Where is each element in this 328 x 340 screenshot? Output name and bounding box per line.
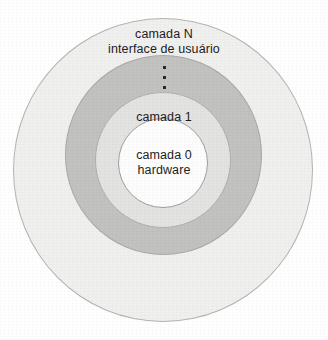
vertical-ellipsis-icon [0, 66, 328, 89]
layered-architecture-diagram: camada N interface de usuário camada 1 c… [0, 0, 328, 340]
layer-circle-camada-0 [118, 118, 208, 208]
ellipsis-dot [163, 86, 166, 89]
ellipsis-dot [163, 76, 166, 79]
ellipsis-dot [163, 66, 166, 69]
